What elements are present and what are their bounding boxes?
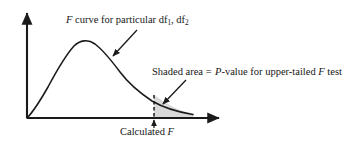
shaded-label-lead-text: Shaded area (152, 66, 206, 77)
calculated-f-text: Calculated (120, 126, 168, 137)
shaded-tail-region (154, 95, 193, 118)
curve-label-middle-text: curve for particular df (72, 14, 167, 25)
curve-label-subscript-2: 2 (185, 19, 189, 27)
shaded-label-equals-sign: = (206, 66, 215, 77)
curve-label-comma-text: , df (171, 14, 185, 25)
curve-label-leader-arrow (113, 30, 137, 56)
curve-description-label: F curve for particular df1, df2 (66, 14, 189, 28)
calculated-f-symbol: F (168, 126, 174, 137)
calculated-f-label: Calculated F (120, 126, 174, 138)
shaded-label-leader-arrow (163, 80, 186, 104)
shaded-label-tail-text: -value for upper-tailed (221, 66, 318, 77)
shaded-area-description-label: Shaded area = P-value for upper-tailed F… (152, 66, 342, 78)
shaded-label-end-text: test (325, 66, 342, 77)
f-distribution-figure: F curve for particular df1, df2 Shaded a… (0, 0, 358, 144)
